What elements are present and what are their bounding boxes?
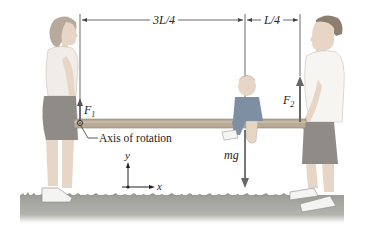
f2-subscript: 2 (290, 100, 294, 109)
man-figure (290, 15, 344, 212)
dimension-label-right: L/4 (261, 14, 283, 26)
force-arrow-f1 (77, 98, 83, 120)
force-arrow-f2 (296, 76, 304, 122)
force-label-mg: mg (224, 149, 239, 161)
y-axis-label: y (125, 150, 130, 161)
axis-of-rotation-label: Axis of rotation (99, 133, 172, 145)
force-label-f2: F2 (283, 94, 294, 109)
diagram-canvas (0, 0, 366, 230)
child-figure (222, 75, 263, 143)
coordinate-axes (122, 162, 155, 189)
dimension-label-left: 3L/4 (150, 14, 178, 26)
physics-diagram: 3L/4 L/4 F1 F2 mg Axis of rotation y x (0, 0, 366, 230)
x-axis-label: x (157, 181, 162, 192)
woman-figure (42, 16, 78, 202)
dimension-lines (80, 14, 300, 122)
plank (74, 119, 306, 128)
force-label-f1: F1 (84, 104, 95, 119)
f1-subscript: 1 (91, 110, 95, 119)
